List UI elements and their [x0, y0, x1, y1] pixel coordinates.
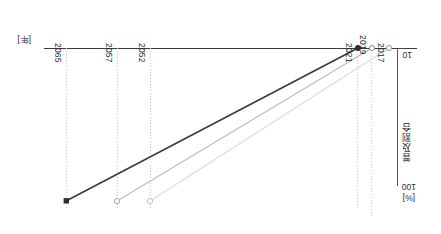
- x-tick-label-2057: 2057: [104, 43, 114, 63]
- x-tick-label-2065: 2065: [53, 43, 63, 63]
- marker-2019-start: [369, 45, 374, 50]
- x-tick-label-2019: 2019: [358, 35, 368, 55]
- y-tick-label-10: 10: [403, 50, 412, 60]
- series-line-light: [150, 48, 389, 201]
- x-tick-label-2021: 2021: [344, 43, 354, 63]
- y-axis-title: 普及割合: [399, 122, 412, 162]
- y-tick-label-100: 100: [402, 182, 416, 192]
- chart-figure: 2065 2057 2052 2021 2019 2017 [年] 10 100…: [0, 0, 441, 234]
- marker-2065-end: [64, 198, 69, 203]
- x-axis-unit-label: [年]: [17, 35, 31, 47]
- x-tick-label-2017: 2017: [376, 43, 386, 63]
- marker-2052-end: [147, 198, 152, 203]
- y-axis-unit-label: [%]: [403, 193, 415, 203]
- series-line-mid: [117, 48, 372, 201]
- series-layer: [0, 0, 441, 234]
- marker-2057-end: [114, 198, 119, 203]
- marker-2017-start: [386, 45, 391, 50]
- series-line-dark: [66, 48, 358, 201]
- x-tick-label-2052: 2052: [137, 43, 147, 63]
